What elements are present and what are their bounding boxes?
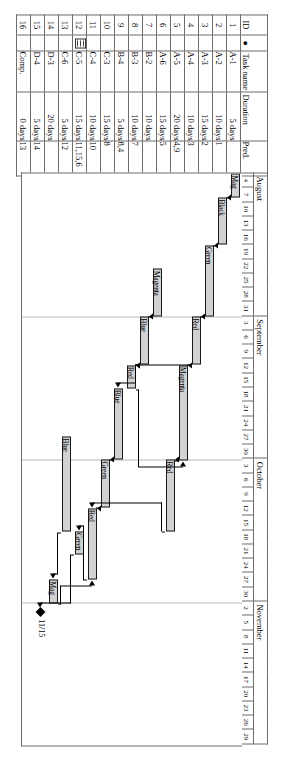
table-row[interactable]: 1A-15 days [227,15,241,176]
cell-id[interactable]: 13 [59,15,73,35]
header-pred[interactable]: Pred. [241,141,268,176]
cell-id[interactable]: 4 [185,15,199,35]
cell-indicator[interactable] [115,35,129,51]
cell-duration[interactable]: 5 days [227,92,241,141]
cell-indicator[interactable] [157,35,171,51]
cell-task-name[interactable]: B-3 [129,51,143,92]
cell-id[interactable]: 11 [87,15,101,35]
task-table[interactable]: ID ● Task name Duration Pred. 1A-15 days… [16,14,268,176]
cell-id[interactable]: 15 [31,15,45,35]
cell-pred[interactable]: 2 [199,141,213,176]
table-row[interactable]: 11C-410 days10 [87,15,101,176]
cell-pred[interactable]: 3 [185,141,199,176]
cell-duration[interactable]: 5 days [115,92,129,141]
cell-duration[interactable]: 5 days [59,92,73,141]
cell-task-name[interactable]: C-6 [59,51,73,92]
cell-duration[interactable]: 5 days [31,92,45,141]
cell-pred[interactable] [227,141,241,176]
cell-duration[interactable]: 10 days [143,92,157,141]
header-duration[interactable]: Duration [241,92,268,141]
cell-indicator[interactable] [31,35,45,51]
cell-id[interactable]: 12 [73,15,87,35]
cell-task-name[interactable]: A-3 [199,51,213,92]
cell-pred[interactable]: 12 [59,141,73,176]
cell-pred[interactable]: 10 [87,141,101,176]
cell-duration[interactable]: 0 days [17,92,31,141]
cell-task-name[interactable]: A-2 [213,51,227,92]
cell-task-name[interactable]: Comp. [17,51,31,92]
cell-task-name[interactable]: C-4 [87,51,101,92]
cell-task-name[interactable]: B-2 [143,51,157,92]
table-row[interactable]: 8B-310 days7 [129,15,143,176]
table-row[interactable]: 15D-45 days14 [31,15,45,176]
cell-id[interactable]: 2 [213,15,227,35]
cell-id[interactable]: 9 [115,15,129,35]
cell-pred[interactable]: 13 [17,141,31,176]
cell-task-name[interactable]: C-5 [73,51,87,92]
cell-id[interactable]: 3 [199,15,213,35]
cell-indicator[interactable] [143,35,157,51]
cell-task-name[interactable]: D-3 [45,51,59,92]
cell-indicator[interactable] [171,35,185,51]
cell-task-name[interactable]: A-6 [157,51,171,92]
table-row[interactable]: 16Comp.0 days13 [17,15,31,176]
cell-id[interactable]: 16 [17,15,31,35]
table-row[interactable]: 6A-615 days5 [157,15,171,176]
cell-indicator[interactable] [17,35,31,51]
cell-pred[interactable]: 11,15,6 [73,141,87,176]
table-row[interactable]: 4A-410 days3 [185,15,199,176]
cell-task-name[interactable]: B-4 [115,51,129,92]
cell-id[interactable]: 8 [129,15,143,35]
cell-indicator[interactable] [45,35,59,51]
table-row[interactable]: 5A-520 days4,9 [171,15,185,176]
cell-duration[interactable]: 15 days [157,92,171,141]
cell-duration[interactable]: 10 days [213,92,227,141]
cell-task-name[interactable]: D-4 [31,51,45,92]
table-row[interactable]: 14D-320 days [45,15,59,176]
cell-duration[interactable]: 15 days [101,92,115,141]
cell-duration[interactable]: 20 days [171,92,185,141]
cell-task-name[interactable]: A-1 [227,51,241,92]
cell-indicator[interactable] [59,35,73,51]
table-row[interactable]: 13C-65 days12 [59,15,73,176]
cell-duration[interactable]: 15 days [73,92,87,141]
header-indicator[interactable]: ● [241,35,268,51]
cell-duration[interactable]: 10 days [129,92,143,141]
cell-indicator[interactable] [87,35,101,51]
cell-indicator[interactable] [199,35,213,51]
table-row[interactable]: 7B-210 days [143,15,157,176]
cell-id[interactable]: 14 [45,15,59,35]
cell-indicator[interactable] [129,35,143,51]
cell-id[interactable]: 5 [171,15,185,35]
cell-duration[interactable]: 10 days [185,92,199,141]
cell-id[interactable]: 1 [227,15,241,35]
cell-task-name[interactable]: A-5 [171,51,185,92]
cell-pred[interactable]: 5 [157,141,171,176]
table-row[interactable]: 3A-315 days2 [199,15,213,176]
gantt-chart-area[interactable]: MagBlackGreenRedMagentaRedMagentaBlueRed… [21,172,242,746]
table-row[interactable]: 9B-45 days8,4 [115,15,129,176]
cell-pred[interactable] [45,141,59,176]
cell-indicator[interactable] [101,35,115,51]
cell-pred[interactable]: 7 [129,141,143,176]
milestone-marker[interactable] [36,606,46,616]
cell-pred[interactable] [143,141,157,176]
table-row[interactable]: 12C-515 days11,15,6 [73,15,87,176]
cell-duration[interactable]: 15 days [199,92,213,141]
cell-pred[interactable]: 4,9 [171,141,185,176]
cell-pred[interactable]: 1 [213,141,227,176]
cell-task-name[interactable]: A-4 [185,51,199,92]
cell-indicator[interactable] [213,35,227,51]
cell-task-name[interactable]: C-3 [101,51,115,92]
cell-id[interactable]: 7 [143,15,157,35]
cell-indicator[interactable] [227,35,241,51]
cell-pred[interactable]: 8,4 [115,141,129,176]
cell-pred[interactable]: 14 [31,141,45,176]
header-task-name[interactable]: Task name [241,51,268,92]
cell-duration[interactable]: 20 days [45,92,59,141]
table-row[interactable]: 2A-210 days1 [213,15,227,176]
cell-id[interactable]: 6 [157,15,171,35]
cell-indicator[interactable] [185,35,199,51]
cell-id[interactable]: 10 [101,15,115,35]
cell-indicator[interactable] [73,35,87,51]
